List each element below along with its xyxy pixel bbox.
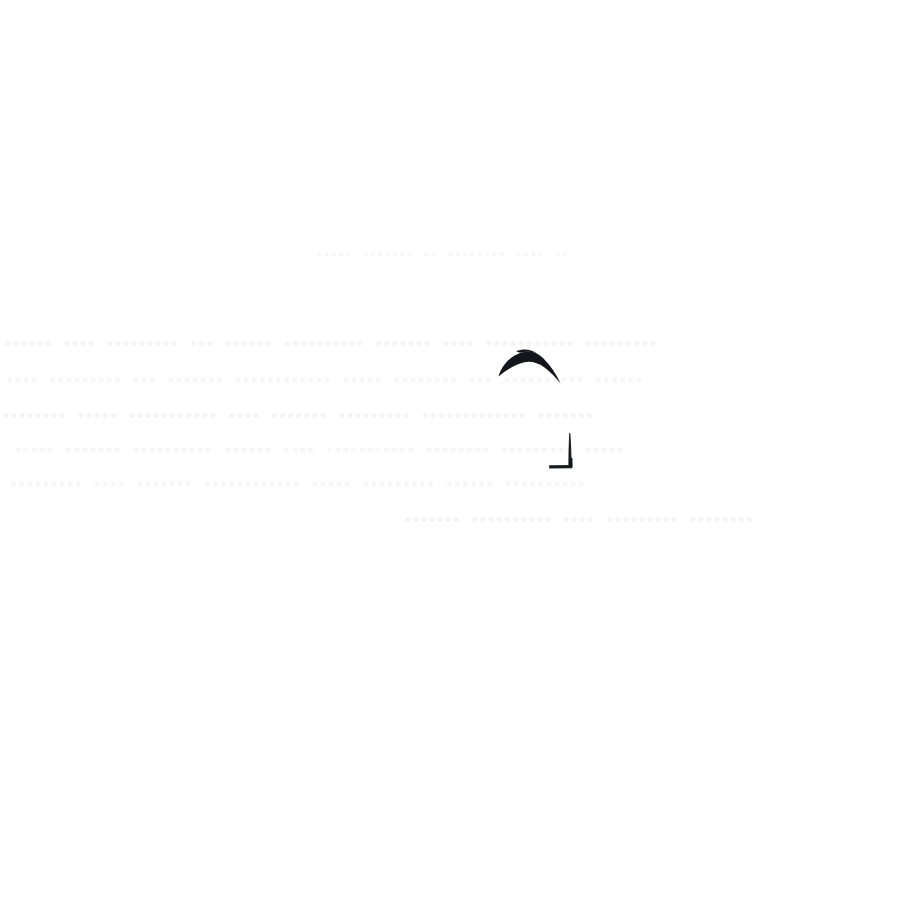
ghost-text-line: •••••••• ••••• ••••••••••• •••• ••••••• … bbox=[2, 404, 594, 429]
ghost-text-line: ••••• ••••••• •••••••••• •••••• •••• •••… bbox=[14, 438, 625, 463]
ghost-text-line: •••••• •••• ••••••••• ••• •••••• •••••••… bbox=[4, 332, 657, 357]
ghost-text-line: ••••••••• •••• ••••••• •••••••••••• ••••… bbox=[10, 472, 586, 497]
faded-body-text-block: ••••• ••••••• •• •••••••• •••• •• ••••••… bbox=[0, 236, 898, 556]
ghost-text-line: ••••• ••••••• •• •••••••• •••• •• bbox=[316, 244, 569, 266]
ghost-text-line: •••• ••••••••• ••• ••••••• •••••••••••• … bbox=[6, 368, 643, 393]
ghost-text-line: ••••••• •••••••••• •••• ••••••••• ••••••… bbox=[404, 508, 754, 533]
scanned-document-page: ••••• ••••••• •• •••••••• •••• •• ••••••… bbox=[0, 0, 898, 922]
